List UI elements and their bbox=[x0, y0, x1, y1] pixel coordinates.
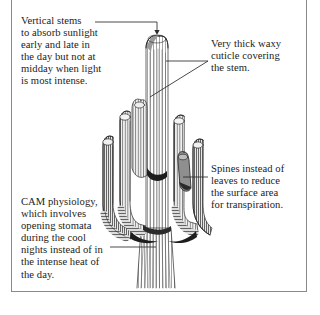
annotation-spines: Spines instead of leaves to reduce the s… bbox=[211, 163, 305, 211]
annotation-waxy-cuticle: Very thick waxy cuticle covering the ste… bbox=[211, 38, 305, 74]
figure-canvas: Vertical stems to absorb sunlight early … bbox=[0, 0, 320, 315]
annotation-cam-physiology: CAM physiology, which involves opening s… bbox=[21, 196, 121, 281]
annotation-vertical-stems: Vertical stems to absorb sunlight early … bbox=[21, 15, 125, 88]
